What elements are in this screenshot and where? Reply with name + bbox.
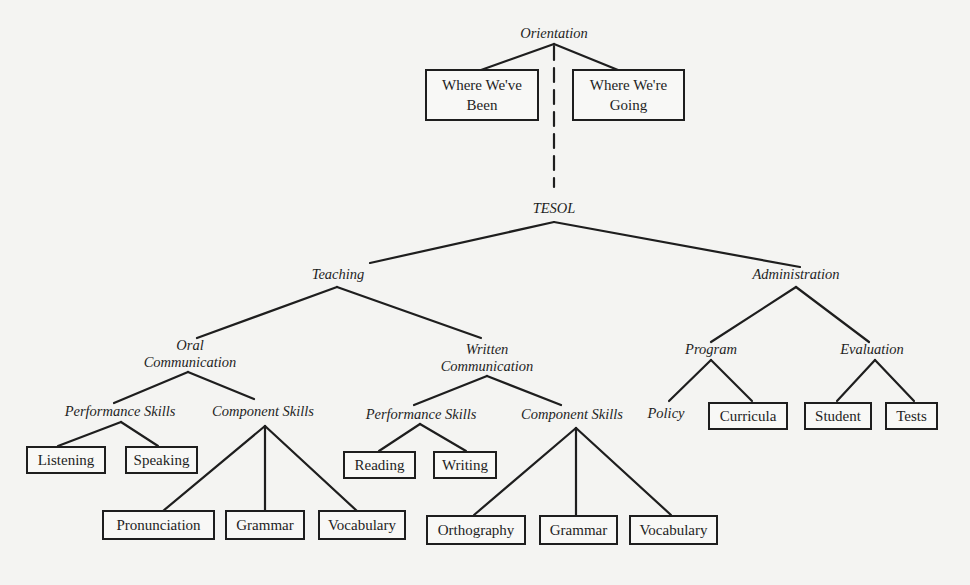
- box-where-were-going-line2: Going: [610, 95, 648, 115]
- node-written-component-skills: Component Skills: [521, 406, 623, 423]
- node-oral-performance-skills: Performance Skills: [65, 403, 176, 420]
- node-oral-line1: Oral: [144, 337, 237, 354]
- node-tesol: TESOL: [533, 200, 576, 217]
- node-written-communication: Written Communication: [441, 341, 534, 375]
- box-where-were-going: Where We're Going: [572, 69, 685, 121]
- box-tests: Tests: [885, 402, 938, 430]
- box-student: Student: [804, 402, 872, 430]
- box-where-were-going-line1: Where We're: [590, 75, 667, 95]
- box-writing: Writing: [433, 451, 497, 479]
- node-oral-communication: Oral Communication: [144, 337, 237, 371]
- node-written-line1: Written: [441, 341, 534, 358]
- node-oral-line2: Communication: [144, 354, 237, 371]
- box-where-weve-been-line2: Been: [467, 95, 498, 115]
- node-written-performance-skills: Performance Skills: [366, 406, 477, 423]
- box-written-vocabulary: Vocabulary: [629, 515, 718, 545]
- node-oral-component-skills: Component Skills: [212, 403, 314, 420]
- box-orthography: Orthography: [426, 515, 526, 545]
- box-pronunciation: Pronunciation: [102, 510, 215, 540]
- node-policy: Policy: [647, 405, 684, 422]
- node-orientation: Orientation: [520, 25, 588, 42]
- tesol-hierarchy-diagram: Orientation Where We've Been Where We're…: [0, 0, 970, 585]
- box-where-weve-been-line1: Where We've: [442, 75, 522, 95]
- node-teaching: Teaching: [312, 266, 365, 283]
- node-evaluation: Evaluation: [840, 341, 904, 358]
- box-written-grammar: Grammar: [539, 515, 618, 545]
- node-administration: Administration: [752, 266, 839, 283]
- box-speaking: Speaking: [125, 446, 198, 474]
- box-oral-vocabulary: Vocabulary: [318, 510, 406, 540]
- node-program: Program: [685, 341, 737, 358]
- node-written-line2: Communication: [441, 358, 534, 375]
- box-oral-grammar: Grammar: [225, 510, 305, 540]
- box-where-weve-been: Where We've Been: [425, 69, 539, 121]
- box-listening: Listening: [26, 446, 106, 474]
- box-curricula: Curricula: [708, 402, 788, 430]
- box-reading: Reading: [343, 451, 416, 479]
